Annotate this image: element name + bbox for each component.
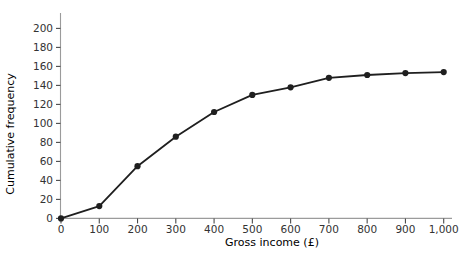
y-tick-label: 60 <box>40 155 53 167</box>
y-tick-label: 140 <box>33 79 53 91</box>
y-tick-label: 0 <box>46 212 53 224</box>
chart-figure: 0204060801001201401601802000100200300400… <box>0 0 467 262</box>
x-tick-label: 600 <box>281 223 301 235</box>
data-point <box>96 203 102 209</box>
data-point <box>326 75 332 81</box>
x-axis-title: Gross income (£) <box>225 236 319 249</box>
y-tick-label: 200 <box>33 22 53 34</box>
y-tick-label: 80 <box>40 136 53 148</box>
y-tick-label: 160 <box>33 60 53 72</box>
x-tick-label: 400 <box>204 223 224 235</box>
data-point <box>58 215 64 221</box>
data-point <box>249 92 255 98</box>
cumulative-frequency-chart: 0204060801001201401601802000100200300400… <box>0 0 467 262</box>
data-point <box>211 109 217 115</box>
data-point <box>173 134 179 140</box>
data-point <box>134 163 140 169</box>
y-axis-title: Cumulative frequency <box>4 73 17 195</box>
x-tick-label: 1,000 <box>429 223 459 235</box>
data-point <box>402 70 408 76</box>
x-tick-label: 800 <box>357 223 377 235</box>
y-tick-label: 120 <box>33 98 53 110</box>
x-tick-label: 0 <box>58 223 65 235</box>
data-point <box>441 69 447 75</box>
x-tick-label: 500 <box>242 223 262 235</box>
data-point <box>288 84 294 90</box>
data-point <box>364 72 370 78</box>
y-tick-label: 20 <box>40 193 53 205</box>
y-tick-label: 40 <box>40 174 53 186</box>
x-tick-label: 300 <box>166 223 186 235</box>
y-tick-label: 180 <box>33 41 53 53</box>
plot-area: 0204060801001201401601802000100200300400… <box>33 13 459 235</box>
y-tick-label: 100 <box>33 117 53 129</box>
x-tick-label: 200 <box>128 223 148 235</box>
x-tick-label: 100 <box>89 223 109 235</box>
x-tick-label: 700 <box>319 223 339 235</box>
x-tick-label: 900 <box>395 223 415 235</box>
